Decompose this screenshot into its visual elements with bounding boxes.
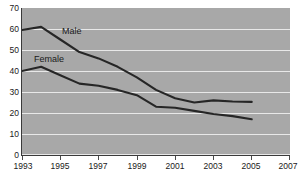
x-tick-mark: [98, 156, 99, 160]
y-axis-labels: 70 60 50 40 30 20 10 0: [0, 0, 19, 176]
series-line-male: [22, 27, 252, 103]
x-tick-mark: [22, 156, 23, 160]
x-tick-mark: [60, 156, 61, 160]
x-tick-mark: [251, 156, 252, 160]
y-tick-label: 10: [1, 130, 19, 138]
x-axis-line: [21, 155, 290, 156]
x-tick-mark: [289, 156, 290, 160]
y-tick-label: 60: [1, 25, 19, 33]
x-tick-label: 2005: [242, 162, 261, 171]
x-tick-label: 1997: [89, 162, 108, 171]
series-label-female: Female: [34, 55, 64, 64]
series-label-male: Male: [62, 27, 82, 36]
x-tick-label: 1993: [14, 162, 33, 171]
y-tick-label: 0: [1, 151, 19, 159]
x-tick-mark: [137, 156, 138, 160]
x-tick-mark: [175, 156, 176, 160]
x-tick-mark: [213, 156, 214, 160]
y-tick-label: 30: [1, 88, 19, 96]
line-chart: 70 60 50 40 30 20 10 0 1993 1995 1997 19…: [0, 0, 307, 176]
x-tick-label: 2001: [166, 162, 185, 171]
y-tick-label: 20: [1, 109, 19, 117]
x-tick-label: 1995: [51, 162, 70, 171]
y-tick-label: 70: [1, 4, 19, 12]
y-axis-line: [21, 8, 22, 156]
y-tick-label: 50: [1, 46, 19, 54]
y-tick-label: 40: [1, 67, 19, 75]
x-tick-label: 1999: [128, 162, 147, 171]
x-tick-label: 2003: [204, 162, 223, 171]
x-tick-label: 2007: [279, 162, 298, 171]
series-line-female: [22, 67, 252, 120]
